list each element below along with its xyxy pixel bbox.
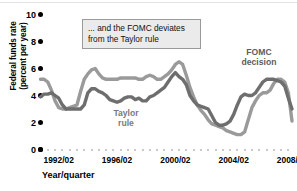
series-label-fomc-decision: FOMC decision xyxy=(232,47,286,67)
x-axis-minor-tick-dot xyxy=(142,149,144,151)
callout-box: ... and the FOMC deviates from the Taylo… xyxy=(82,19,201,49)
x-axis-minor-tick-dot xyxy=(120,149,122,151)
chart-figure: Federal funds rate (percent per year) 10… xyxy=(0,0,297,191)
x-axis-minor-tick-dot xyxy=(156,149,158,151)
x-axis-minor-tick-dot xyxy=(98,149,100,151)
x-axis-minor-tick-dot xyxy=(207,149,209,151)
x-axis-minor-tick-dot xyxy=(244,149,246,151)
x-axis-minor-tick-dot xyxy=(266,149,268,151)
x-axis-minor-tick-dot xyxy=(193,149,195,151)
series-label-taylor-rule: Taylor rule xyxy=(104,108,148,128)
x-axis-minor-tick-dot xyxy=(69,149,71,151)
x-axis-minor-tick-dot xyxy=(105,149,107,151)
x-axis-minor-tick-dot xyxy=(171,149,173,151)
x-axis-minor-tick-dot xyxy=(178,149,180,151)
series-label-fomc-line1: FOMC xyxy=(246,47,271,57)
callout-line1: ... and the FOMC deviates xyxy=(88,23,185,33)
x-axis-minor-tick-dot xyxy=(273,149,275,151)
series-line-taylor-rule xyxy=(41,62,293,135)
x-axis-minor-tick-dot xyxy=(229,149,231,151)
x-axis-origin-dot xyxy=(38,147,43,152)
x-axis-minor-tick-dot xyxy=(83,149,85,151)
x-axis-minor-tick-dot xyxy=(280,149,282,151)
series-label-taylor-line2: rule xyxy=(118,118,134,128)
series-label-fomc-line2: decision xyxy=(242,57,277,67)
x-tick-label-1992: 1992/02 xyxy=(29,156,89,165)
callout-line2: from the Taylor rule xyxy=(88,34,159,44)
series-label-taylor-line1: Taylor xyxy=(113,108,138,118)
x-axis-minor-tick-dot xyxy=(200,149,202,151)
x-tick-label-2004: 2004/02 xyxy=(204,156,264,165)
x-axis-minor-tick-dot xyxy=(47,149,49,151)
x-axis-minor-tick-dot xyxy=(215,149,217,151)
x-axis-minor-tick-dot xyxy=(251,149,253,151)
x-axis-minor-tick-dot xyxy=(222,149,224,151)
x-axis-minor-tick-dot xyxy=(91,149,93,151)
x-tick-label-2008: 2008/02 xyxy=(262,156,297,165)
x-axis-minor-tick-dot xyxy=(149,149,151,151)
x-tick-label-2000: 2000/02 xyxy=(145,156,205,165)
x-axis-minor-tick-dot xyxy=(76,149,78,151)
x-axis-title: Year/quarter xyxy=(42,170,95,180)
x-tick-label-1996: 1996/02 xyxy=(87,156,147,165)
x-axis-minor-tick-dot xyxy=(127,149,129,151)
x-axis-minor-tick-dot xyxy=(54,149,56,151)
x-axis-minor-tick-dot xyxy=(258,149,260,151)
